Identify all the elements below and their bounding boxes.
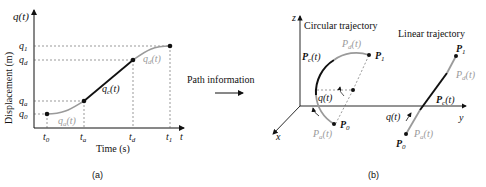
circular-p0-point <box>332 122 336 126</box>
tick-t0: t0 <box>43 131 50 144</box>
z-label: z <box>291 12 296 23</box>
linear-motion-arrow-icon <box>406 113 411 121</box>
linear-p0-label: P0 <box>396 138 406 151</box>
label-qa-t: qa(t) <box>58 115 77 128</box>
panel-b-3d-trajectories: z y x Circular trajectory Pc(t) Pd(t) P1… <box>273 12 476 180</box>
path-information-arrow: Path information <box>187 74 255 93</box>
circular-p1-label: P1 <box>375 50 385 63</box>
x-label: x <box>275 131 281 142</box>
arrow-label: Path information <box>187 74 255 85</box>
circular-trajectory: Circular trajectory Pc(t) Pd(t) P1 q(t) … <box>302 20 385 141</box>
linear-p0-point <box>404 132 408 136</box>
circle-center <box>351 88 355 92</box>
linear-pd-label: Pd(t) <box>455 69 476 82</box>
linear-p1-label: P1 <box>456 43 466 56</box>
tick-ta: ta <box>80 131 87 144</box>
label-qd-t: qd(t) <box>143 53 162 66</box>
linear-decel-segment <box>447 56 456 73</box>
circular-decel-arc <box>334 53 369 60</box>
linear-pa-label: Pa(t) <box>413 128 434 141</box>
x-axis-var: t <box>180 131 183 142</box>
linear-p1-point <box>454 54 458 58</box>
angle-arrow-icon <box>340 87 344 96</box>
tick-q1: q1 <box>19 40 28 53</box>
caption-b: (b) <box>368 170 379 180</box>
linear-pc-label: Pc(t) <box>436 94 455 107</box>
circular-pa-label: Pa(t) <box>312 128 333 141</box>
x-axis-label: Time (s) <box>96 143 130 155</box>
tick-t1: t1 <box>166 131 172 144</box>
linear-trajectory: Linear trajectory P1 Pd(t) Pc(t) q(t) P0… <box>386 28 476 151</box>
y-axis-label: Displacement (m) <box>3 52 15 124</box>
circular-pd-label: Pd(t) <box>341 38 362 51</box>
circular-pc-label: Pc(t) <box>302 51 321 64</box>
tick-td: td <box>129 131 136 144</box>
tick-qd: qd <box>19 54 28 67</box>
y-label: y <box>458 112 464 123</box>
x-axis-3d <box>273 106 300 134</box>
y-axis-var: q(t) <box>13 10 29 23</box>
circular-q-label: q(t) <box>318 92 333 104</box>
circular-p1-point <box>367 53 371 57</box>
label-qc-t: qc(t) <box>102 83 120 96</box>
circular-title: Circular trajectory <box>304 20 378 31</box>
accel-segment <box>47 101 84 114</box>
motion-arrow-icon <box>313 108 319 116</box>
panel-a-velocity-profile: q(t) Displacement (m) q0 qa qd q1 t0 ta … <box>3 10 184 180</box>
caption-a: (a) <box>92 170 103 180</box>
tick-qa: qa <box>19 95 28 108</box>
circular-p0-label: P0 <box>340 119 350 132</box>
tick-q0: q0 <box>19 108 28 121</box>
linear-title: Linear trajectory <box>398 28 465 39</box>
trajectory-diagram: q(t) Displacement (m) q0 qa qd q1 t0 ta … <box>0 0 486 187</box>
linear-q-label: q(t) <box>386 111 401 123</box>
